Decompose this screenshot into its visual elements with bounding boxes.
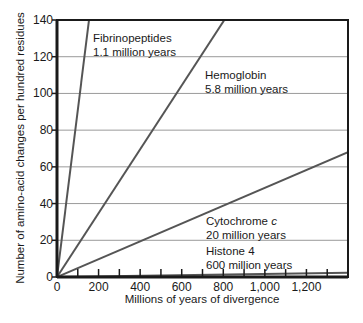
annotation-histone-4: Histone 4 600 million years: [206, 245, 293, 271]
svg-text:Hemoglobin: Hemoglobin: [205, 69, 266, 81]
svg-text:5.8 million years: 5.8 million years: [205, 83, 288, 95]
plot-frame: [57, 20, 348, 277]
series-line-hemoglobin: [57, 20, 224, 277]
y-tick-label: 100: [33, 86, 53, 100]
y-axis-title: Number of amino-acid changes per hundred…: [14, 12, 26, 284]
y-tick-label: 20: [40, 233, 54, 247]
svg-text:600 million years: 600 million years: [206, 259, 293, 271]
x-tick-label: 600: [172, 280, 192, 294]
annotation-hemoglobin: Hemoglobin 5.8 million years: [205, 69, 288, 95]
y-tick-label: 140: [33, 13, 53, 27]
y-tick-label: 80: [40, 123, 54, 137]
series-lines: [57, 20, 348, 277]
gridlines: [57, 57, 348, 241]
annotation-cytochrome-c: Cytochrome c 20 million years: [206, 215, 286, 241]
x-tick-label: 800: [213, 280, 233, 294]
x-axis-title: Millions of years of divergence: [125, 293, 280, 305]
x-axis-ticks: 02004006008001,0001,200: [54, 269, 328, 294]
series-line-fibrinopeptides: [57, 20, 89, 277]
svg-text:Fibrinopeptides: Fibrinopeptides: [93, 32, 172, 44]
y-tick-label: 120: [33, 50, 53, 64]
svg-text:20 million years: 20 million years: [206, 229, 286, 241]
y-tick-label: 0: [46, 270, 53, 284]
y-tick-label: 60: [40, 160, 54, 174]
x-tick-label: 400: [130, 280, 150, 294]
x-tick-label: 0: [54, 280, 61, 294]
y-axis-ticks: 020406080100120140: [33, 13, 57, 284]
x-tick-label: 1,200: [291, 280, 321, 294]
svg-text:1.1 million years: 1.1 million years: [93, 46, 176, 58]
plot-border: [57, 20, 348, 277]
svg-text:Cytochrome c: Cytochrome c: [206, 215, 277, 227]
x-tick-label: 1,000: [250, 280, 280, 294]
annotation-fibrinopeptides: Fibrinopeptides 1.1 million years: [93, 32, 176, 58]
chart: 02004006008001,0001,200 0204060801001201…: [0, 0, 363, 323]
x-tick-label: 200: [89, 280, 109, 294]
series-line-cytochrome-c: [57, 152, 348, 277]
svg-text:Histone 4: Histone 4: [206, 245, 255, 257]
y-tick-label: 40: [40, 197, 54, 211]
